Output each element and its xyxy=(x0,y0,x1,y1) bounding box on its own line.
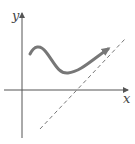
graph-diagram: y x xyxy=(0,0,135,144)
x-axis-label: x xyxy=(123,91,131,106)
function-curve xyxy=(30,47,108,73)
asymptote-line xyxy=(40,39,125,129)
y-axis-label: y xyxy=(11,8,20,23)
